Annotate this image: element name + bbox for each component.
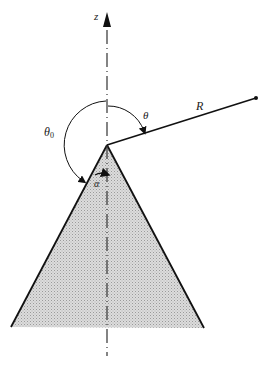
alpha-label: α xyxy=(94,178,100,189)
z-axis-label: z xyxy=(93,10,99,22)
radius-line xyxy=(107,98,256,145)
cone-diagram: z R θ θ0 α xyxy=(0,0,271,370)
theta-arc xyxy=(108,106,144,131)
z-axis-arrow-icon xyxy=(103,12,111,27)
radius-label: R xyxy=(195,99,204,113)
theta0-label: θ0 xyxy=(44,125,54,140)
radius-endpoint xyxy=(254,96,258,100)
theta-label: θ xyxy=(143,109,149,121)
